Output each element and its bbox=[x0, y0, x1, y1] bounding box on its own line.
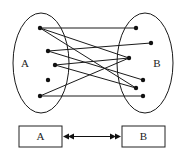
bidirectional-arrow-icon bbox=[63, 134, 121, 140]
set-element-dot bbox=[149, 41, 153, 45]
points-layer bbox=[38, 26, 153, 98]
set-element-dot bbox=[134, 86, 138, 90]
mapping-edge bbox=[40, 28, 136, 88]
mapping-edge bbox=[48, 51, 143, 80]
set-b-ellipse bbox=[117, 13, 173, 113]
set-element-dot bbox=[53, 63, 57, 67]
set-element-dot bbox=[127, 56, 131, 60]
box-a-label: A bbox=[37, 130, 45, 142]
set-element-dot bbox=[38, 94, 42, 98]
set-element-dot bbox=[141, 94, 145, 98]
bottom-relation: A B bbox=[19, 126, 165, 147]
set-element-dot bbox=[38, 26, 42, 30]
set-element-dot bbox=[46, 49, 50, 53]
mapping-diagram: A B A B bbox=[0, 0, 178, 160]
edges-layer bbox=[40, 28, 151, 96]
set-a-label: A bbox=[21, 57, 29, 69]
set-element-dot bbox=[46, 78, 50, 82]
set-b-label: B bbox=[153, 57, 160, 69]
mapping-edge bbox=[40, 28, 129, 58]
mapping-edge bbox=[48, 43, 151, 51]
set-element-dot bbox=[141, 78, 145, 82]
box-b-label: B bbox=[140, 130, 147, 142]
set-element-dot bbox=[134, 26, 138, 30]
